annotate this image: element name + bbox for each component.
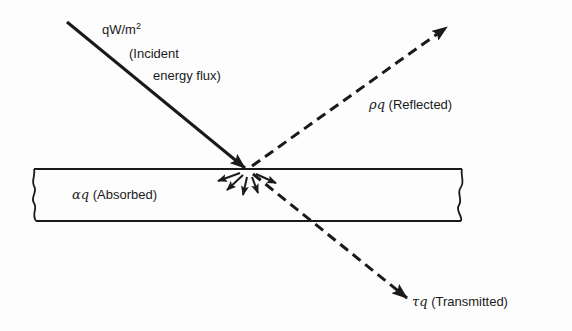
incident-description-line1: (Incident — [129, 46, 179, 61]
incident-flux-label: qW/m2 — [102, 22, 141, 37]
reflected-text: (Reflected) — [389, 97, 453, 112]
absorbed-text: (Absorbed) — [93, 187, 157, 202]
transmitted-text: (Transmitted) — [431, 294, 508, 309]
incident-exponent: 2 — [136, 21, 141, 31]
absorbed-symbol: αq — [72, 187, 89, 202]
reflected-symbol: ρq — [369, 97, 385, 112]
diagram-graphics — [0, 0, 572, 331]
absorbed-label: αq (Absorbed) — [72, 187, 157, 202]
radiation-diagram: qW/m2 (Incident energy flux) ρq (Reflect… — [0, 0, 572, 331]
incident-ray-arrow — [67, 22, 245, 168]
reflected-label: ρq (Reflected) — [369, 97, 452, 112]
transmitted-ray-arrow — [253, 174, 407, 298]
transmitted-label: τq (Transmitted) — [412, 294, 508, 309]
transmitted-symbol: τq — [412, 294, 428, 309]
incident-description-line2: energy flux) — [153, 68, 221, 83]
incident-quantity: qW/m — [102, 22, 136, 37]
